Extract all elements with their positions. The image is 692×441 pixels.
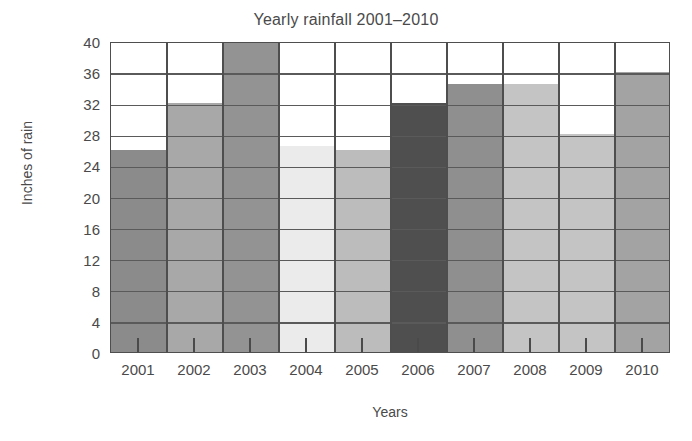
x-tick-mark-2008 bbox=[529, 338, 531, 352]
x-tick-mark-2003 bbox=[249, 338, 251, 352]
bar-2002[interactable] bbox=[167, 103, 223, 352]
x-tick-mark-2002 bbox=[193, 338, 195, 352]
y-tick-label-4: 4 bbox=[60, 315, 100, 330]
plot-area bbox=[110, 42, 670, 353]
bar-separator-2005 bbox=[334, 43, 336, 352]
chart-title: Yearly rainfall 2001–2010 bbox=[0, 11, 692, 29]
x-tick-label-2002: 2002 bbox=[166, 361, 222, 378]
x-tick-label-2006: 2006 bbox=[390, 361, 446, 378]
x-tick-label-2001: 2001 bbox=[110, 361, 166, 378]
x-tick-mark-2009 bbox=[585, 338, 587, 352]
y-tick-label-40: 40 bbox=[60, 35, 100, 50]
y-tick-label-20: 20 bbox=[60, 191, 100, 206]
x-tick-label-2004: 2004 bbox=[278, 361, 334, 378]
bar-separator-2006 bbox=[390, 43, 392, 352]
y-tick-label-36: 36 bbox=[60, 66, 100, 81]
x-tick-mark-2010 bbox=[641, 338, 643, 352]
x-tick-mark-2006 bbox=[417, 338, 419, 352]
bar-separator-2003 bbox=[222, 43, 224, 352]
bar-2007[interactable] bbox=[447, 84, 503, 352]
x-tick-label-2005: 2005 bbox=[334, 361, 390, 378]
x-tick-label-2009: 2009 bbox=[558, 361, 614, 378]
y-tick-label-24: 24 bbox=[60, 159, 100, 174]
x-tick-label-2010: 2010 bbox=[614, 361, 670, 378]
x-tick-mark-2004 bbox=[305, 338, 307, 352]
y-axis-title: Inches of rain bbox=[19, 93, 35, 233]
bar-separator-2002 bbox=[166, 43, 168, 352]
x-axis-title: Years bbox=[110, 404, 670, 420]
x-tick-label-2007: 2007 bbox=[446, 361, 502, 378]
bar-separator-2010 bbox=[614, 43, 616, 352]
y-tick-label-8: 8 bbox=[60, 284, 100, 299]
bar-2010[interactable] bbox=[615, 72, 670, 352]
x-tick-mark-2007 bbox=[473, 338, 475, 352]
bar-2008[interactable] bbox=[503, 84, 559, 352]
rainfall-bar-chart: Yearly rainfall 2001–2010 Inches of rain… bbox=[0, 0, 692, 441]
x-tick-label-2008: 2008 bbox=[502, 361, 558, 378]
y-tick-label-0: 0 bbox=[60, 346, 100, 361]
bar-2004[interactable] bbox=[279, 146, 335, 352]
x-tick-mark-2001 bbox=[137, 338, 139, 352]
x-tick-label-2003: 2003 bbox=[222, 361, 278, 378]
y-tick-label-12: 12 bbox=[60, 253, 100, 268]
bar-separator-2007 bbox=[446, 43, 448, 352]
x-tick-mark-2005 bbox=[361, 338, 363, 352]
bar-separator-2009 bbox=[558, 43, 560, 352]
y-tick-label-32: 32 bbox=[60, 97, 100, 112]
y-tick-label-28: 28 bbox=[60, 128, 100, 143]
y-tick-label-16: 16 bbox=[60, 222, 100, 237]
bar-separator-2004 bbox=[278, 43, 280, 352]
bar-separator-2008 bbox=[502, 43, 504, 352]
bar-2006[interactable] bbox=[391, 103, 447, 352]
